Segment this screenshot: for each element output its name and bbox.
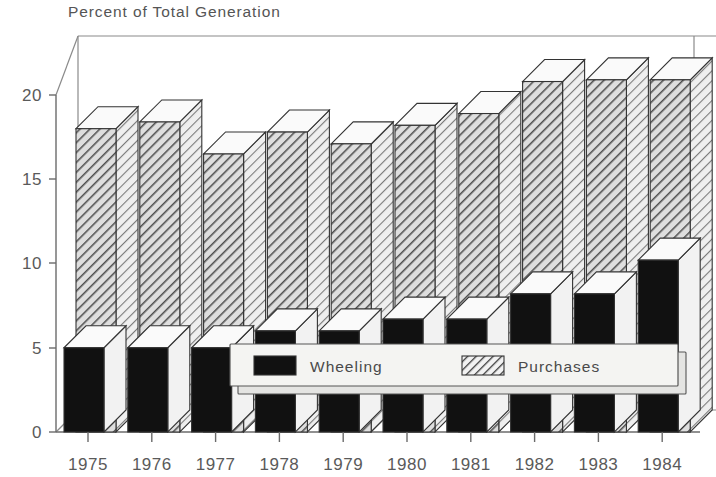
chart-title: Percent of Total Generation [68,3,281,20]
x-tick-label-1978: 1978 [259,455,299,474]
legend-label-wheeling: Wheeling [310,358,383,375]
x-tick-label-1982: 1982 [515,455,555,474]
x-tick-label-1983: 1983 [578,455,618,474]
x-tick-label-1984: 1984 [642,455,682,474]
bar-wheeling-1984 [638,238,700,432]
legend-label-purchases: Purchases [518,358,600,375]
legend-panel [230,344,678,386]
y-tick-label-15: 15 [22,170,42,189]
chart-legend: Wheeling Purchases [230,344,686,394]
y-tick-label-0: 0 [32,423,42,442]
legend-swatch-purchases [462,356,504,375]
bar-chart-svg: Percent of Total Generation [0,0,716,477]
x-tick-label-1975: 1975 [68,455,108,474]
x-tick-label-1981: 1981 [451,455,491,474]
x-tick-label-1976: 1976 [132,455,172,474]
x-tick-label-1980: 1980 [387,455,427,474]
bar-front-face [128,348,168,432]
bar-group-front-1976 [128,326,190,432]
bar-side-face [678,238,700,432]
y-tick-label-5: 5 [32,339,42,358]
bar-group-front-1975 [64,326,126,432]
chart-container: Percent of Total Generation [0,0,716,477]
legend-swatch-wheeling [254,356,296,375]
bar-group-front-1984 [638,238,700,432]
bar-front-face [192,348,232,432]
x-tick-label-1977: 1977 [196,455,236,474]
bar-wheeling-1975 [64,326,126,432]
bar-wheeling-1976 [128,326,190,432]
x-tick-label-1979: 1979 [323,455,363,474]
y-tick-label-10: 10 [22,254,42,273]
y-tick-label-20: 20 [22,86,42,105]
bar-front-face [64,348,104,432]
